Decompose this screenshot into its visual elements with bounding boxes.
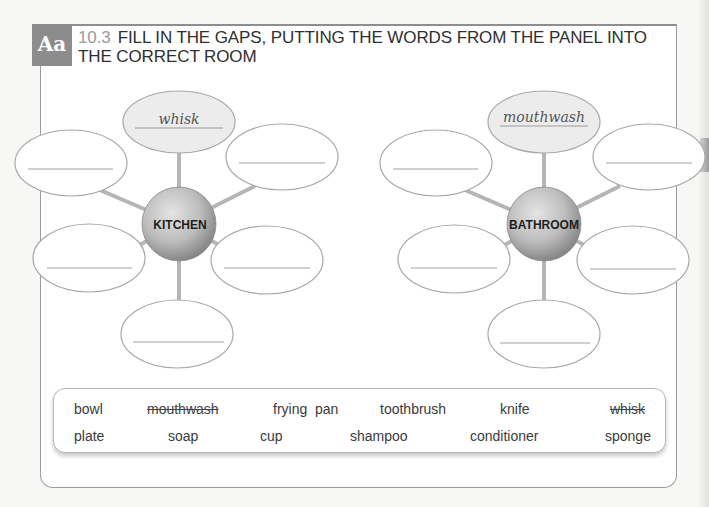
kitchen-example-bubble: whisk [123,91,235,153]
word-soap: soap [168,428,198,444]
word-panel: bowl mouthwash frying pan toothbrush kni… [53,388,666,453]
bathroom-blank-5[interactable] [488,300,600,368]
bathroom-blank-3[interactable] [398,225,510,293]
bathroom-example-bubble: mouthwash [488,91,600,153]
bathroom-example-answer: mouthwash [503,109,585,125]
word-shampoo: shampoo [350,428,408,444]
bathroom-blank-4[interactable] [577,226,689,294]
bathroom-hub: BATHROOM [507,187,581,261]
word-sponge: sponge [605,428,651,444]
kitchen-example-answer: whisk [158,111,199,127]
word-conditioner: conditioner [470,428,539,444]
kitchen-label: KITCHEN [153,218,206,232]
kitchen-blank-5[interactable] [121,300,233,368]
word-frying-pan: frying pan [273,401,338,417]
kitchen-blank-3[interactable] [33,224,145,292]
kitchen-hub: KITCHEN [142,187,216,261]
word-knife: knife [500,401,530,417]
word-whisk: whisk [610,401,645,417]
kitchen-blank-1[interactable] [15,130,127,196]
kitchen-web: whisk KITCHEN [15,91,338,368]
word-mouthwash: mouthwash [147,401,219,417]
kitchen-blank-2[interactable] [226,124,338,190]
bathroom-blank-1[interactable] [380,130,492,196]
word-cup: cup [260,428,283,444]
bathroom-label: BATHROOM [509,218,579,232]
word-toothbrush: toothbrush [380,401,446,417]
bathroom-blank-2[interactable] [593,124,705,190]
word-bowl: bowl [74,401,103,417]
bathroom-web: mouthwash BATHROOM [380,91,705,368]
word-plate: plate [74,428,104,444]
kitchen-blank-4[interactable] [211,226,323,294]
